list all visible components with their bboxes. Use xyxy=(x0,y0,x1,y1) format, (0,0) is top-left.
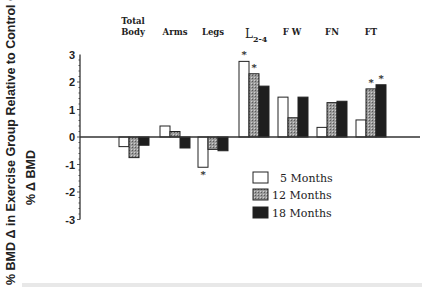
y-tick-label: 0 xyxy=(69,131,75,143)
bar-total-body-18-months xyxy=(139,137,149,145)
legend-label: 5 Months xyxy=(280,172,333,185)
y-tick-label: 2 xyxy=(69,76,75,88)
category-label: Legs xyxy=(202,27,224,37)
bar-arms-12-months xyxy=(170,132,180,138)
category-label: Body xyxy=(121,27,146,37)
bars: ***** xyxy=(119,49,386,180)
significance-asterisk: * xyxy=(368,77,374,88)
bar-fw-18-months xyxy=(298,97,308,137)
bar-total-body-5-months xyxy=(119,137,129,147)
bar-arms-18-months xyxy=(180,137,190,148)
category-label: Arms xyxy=(162,27,188,37)
y-axis-label: % BMD Δ in Exercise Group Relative to Co… xyxy=(4,0,18,285)
significance-asterisk: * xyxy=(378,73,384,84)
bar-arms-5-months xyxy=(160,126,170,137)
legend-swatch xyxy=(253,189,268,200)
y-tick-label: 3 xyxy=(69,49,75,61)
bar-legs-5-months xyxy=(198,137,208,167)
bar-legs-18-months xyxy=(218,137,228,151)
category-label: Total xyxy=(121,16,145,26)
bar-ft-12-months xyxy=(366,89,376,137)
y-axis-title: % BMD Δ in Exercise Group Relative to Co… xyxy=(4,0,38,285)
legend-label: 18 Months xyxy=(272,207,332,220)
bar-l2-4-18-months xyxy=(259,86,269,137)
legend-label: 12 Months xyxy=(272,189,332,202)
category-label: L2-4 xyxy=(245,27,268,44)
bar-fn-12-months xyxy=(327,103,337,137)
legend-swatch xyxy=(253,172,268,183)
bar-ft-18-months xyxy=(376,85,386,137)
significance-asterisk: * xyxy=(200,169,206,180)
bar-fn-18-months xyxy=(337,101,347,137)
category-label: F W xyxy=(283,27,302,37)
bar-ft-5-months xyxy=(356,120,366,137)
legend-swatch xyxy=(253,207,268,218)
bar-fw-5-months xyxy=(278,97,288,137)
bar-legs-12-months xyxy=(208,137,218,149)
y-axis-label-secondary: % Δ BMD xyxy=(24,150,38,205)
y-tick-label: 1 xyxy=(69,104,75,116)
bar-fn-5-months xyxy=(317,127,327,137)
significance-asterisk: * xyxy=(251,62,257,73)
category-label: FT xyxy=(365,27,378,37)
legend: 5 Months12 Months18 Months xyxy=(253,172,333,220)
category-label: FN xyxy=(325,27,339,37)
bar-total-body-12-months xyxy=(129,137,139,158)
caption-faint xyxy=(22,283,422,287)
bar-fw-12-months xyxy=(288,118,298,137)
bar-l2-4-12-months xyxy=(249,74,259,137)
y-tick-label: -2 xyxy=(65,186,75,198)
y-axis: 3210-1-2-3 xyxy=(65,49,80,226)
y-tick-label: -3 xyxy=(65,214,75,226)
significance-asterisk: * xyxy=(241,49,247,60)
y-tick-label: -1 xyxy=(65,159,75,171)
category-labels: TotalBodyArmsLegsL2-4F WFNFT xyxy=(121,16,378,44)
bmd-bar-chart: % BMD Δ in Exercise Group Relative to Co… xyxy=(0,0,432,292)
bar-l2-4-5-months xyxy=(239,61,249,137)
